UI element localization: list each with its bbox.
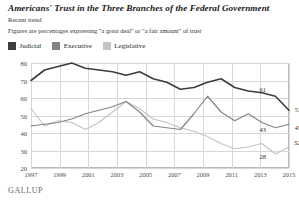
data-point-label: 28 (259, 153, 265, 160)
data-point-label: 43 (259, 125, 265, 132)
series-line-legislative (31, 102, 289, 155)
y-axis-tick-label: 40 (20, 130, 27, 137)
chart-subtitle: Recent trend (8, 16, 42, 23)
legend-item-legislative[interactable]: Legislative (103, 42, 146, 50)
source-label: GALLUP (8, 186, 43, 195)
legend-label: Executive (64, 42, 92, 50)
x-axis-tick-label: 2007 (168, 171, 181, 178)
gridline-horizontal (31, 168, 289, 169)
chart-legend: JudicialExecutiveLegislative (8, 40, 145, 51)
gridline-vertical (289, 63, 290, 168)
square-swatch (52, 42, 60, 50)
data-point-label: 61 (259, 86, 265, 93)
square-swatch (103, 42, 111, 50)
chart-note: Figures are percentages expressing "a gr… (8, 27, 201, 34)
series-line-executive (31, 96, 289, 129)
legend-item-judicial[interactable]: Judicial (8, 42, 41, 50)
legend-label: Legislative (114, 42, 145, 50)
series-lines (31, 63, 289, 168)
y-axis-tick-label: 80 (20, 60, 27, 67)
square-swatch (8, 42, 16, 50)
legend-label: Judicial (20, 42, 42, 50)
x-axis-tick-label: 2011 (225, 171, 238, 178)
x-axis-tick-label: 2005 (139, 171, 152, 178)
page-title: Americans' Trust in the Three Branches o… (8, 3, 269, 13)
legend-item-executive[interactable]: Executive (52, 42, 92, 50)
chart-sheet: Americans' Trust in the Three Branches o… (0, 0, 299, 205)
y-axis-tick-label: 50 (20, 112, 27, 119)
x-axis-tick-label: 2009 (197, 171, 210, 178)
data-point-label: 45 (295, 124, 299, 131)
data-point-label: 32 (294, 139, 299, 146)
plot-area: 2030405060708019971999200120032005200720… (31, 63, 289, 168)
y-axis-tick-label: 70 (20, 77, 27, 84)
x-axis-tick-label: 1999 (53, 171, 66, 178)
x-axis-tick-label: 2003 (111, 171, 124, 178)
x-axis-tick-label: 2013 (254, 171, 267, 178)
x-axis-tick-label: 2001 (82, 171, 95, 178)
data-point-label: 53 (295, 106, 299, 113)
x-axis-tick-label: 2015 (283, 171, 296, 178)
y-axis-tick-label: 30 (20, 147, 27, 154)
series-line-judicial (31, 63, 289, 110)
y-axis-tick-label: 60 (20, 95, 27, 102)
x-axis-tick-label: 1997 (25, 171, 38, 178)
